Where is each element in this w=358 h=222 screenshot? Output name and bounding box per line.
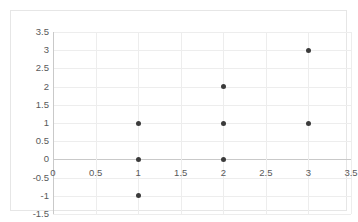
gridline-horizontal [53,141,351,142]
gridline-vertical [351,32,352,214]
y-tick-label: 1 [44,118,49,128]
x-tick-label: 3 [306,168,311,178]
gridline-horizontal [53,68,351,69]
y-tick-label: -1.5 [33,209,49,219]
y-tick-label: 0 [44,155,49,165]
x-tick-label: 0 [50,168,55,178]
x-tick-label: 1.5 [174,168,187,178]
y-tick-label: -0.5 [33,173,49,183]
x-axis-tick-labels: 00.511.522.533.5 [53,168,351,182]
y-tick-label: 2.5 [36,64,49,74]
x-tick-label: 1 [135,168,140,178]
data-point [136,121,141,126]
gridline-vertical [96,32,97,214]
y-axis-line [53,32,54,214]
data-point [136,157,141,162]
data-point [221,121,226,126]
x-tick-label: 2.5 [259,168,272,178]
y-tick-label: 1.5 [36,100,49,110]
y-tick-label: -1 [41,191,49,201]
scatter-chart: 3.532.521.510.50-0.5-1-1.5 00.511.522.53… [0,0,358,222]
x-tick-label: 3.5 [344,168,357,178]
data-point [306,48,311,53]
data-point [136,193,141,198]
y-tick-label: 3.5 [36,27,49,37]
data-point [221,84,226,89]
gridline-horizontal [53,87,351,88]
x-axis-line [53,159,351,160]
gridline-horizontal [53,214,351,215]
gridline-horizontal [53,32,351,33]
y-tick-label: 3 [44,45,49,55]
y-tick-label: 0.5 [36,136,49,146]
plot-area [53,32,351,214]
gridline-vertical [266,32,267,214]
y-axis-tick-labels: 3.532.521.510.50-0.5-1-1.5 [11,32,49,214]
y-tick-label: 2 [44,82,49,92]
gridline-horizontal [53,196,351,197]
gridline-horizontal [53,105,351,106]
data-point [306,121,311,126]
data-point [221,157,226,162]
x-tick-label: 2 [221,168,226,178]
gridline-vertical [181,32,182,214]
x-tick-label: 0.5 [89,168,102,178]
chart-frame: 3.532.521.510.50-0.5-1-1.5 00.511.522.53… [10,10,347,211]
